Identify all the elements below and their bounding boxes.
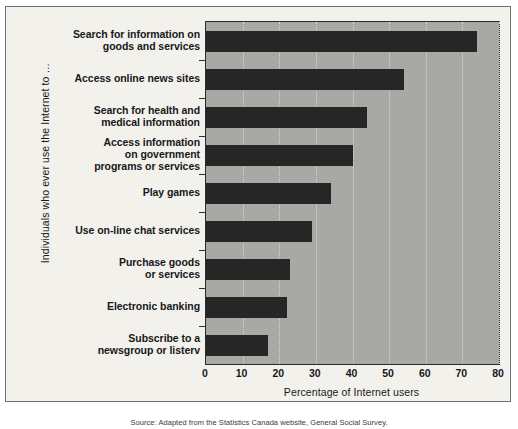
category-label-line: Access information	[28, 136, 200, 148]
x-axis-tick-label: 40	[346, 367, 358, 379]
category-label-column: Search for information ongoods and servi…	[28, 21, 200, 363]
x-axis-title: Percentage of Internet users	[205, 386, 498, 398]
bar	[206, 221, 312, 242]
plot-area	[205, 21, 500, 365]
y-axis-tick	[199, 136, 206, 137]
y-axis-tick	[199, 212, 206, 213]
category-label-line: programs or services	[28, 160, 200, 172]
category-label: Purchase goodsor services	[28, 256, 200, 280]
category-label: Search for information ongoods and servi…	[28, 28, 200, 52]
chart-figure: Individuals who ever use the Internet to…	[5, 6, 511, 402]
x-axis-tick-label: 10	[236, 367, 248, 379]
category-label: Access online news sites	[28, 72, 200, 84]
x-axis-tick-label: 30	[309, 367, 321, 379]
source-caption: Source: Adapted from the Statistics Cana…	[0, 418, 518, 429]
bar	[206, 335, 268, 356]
category-label: Use on-line chat services	[28, 224, 200, 236]
x-axis-tick-label: 20	[272, 367, 284, 379]
category-label-line: medical information	[28, 116, 200, 128]
bar	[206, 31, 477, 52]
category-label-line: Electronic banking	[28, 300, 200, 312]
bar	[206, 107, 367, 128]
bar	[206, 69, 404, 90]
bar	[206, 145, 353, 166]
y-axis-tick	[199, 250, 206, 251]
x-axis-tick-label: 80	[492, 367, 504, 379]
y-axis-tick	[199, 174, 206, 175]
category-label-line: Use on-line chat services	[28, 224, 200, 236]
category-label-line: Search for health and	[28, 104, 200, 116]
category-label: Subscribe to anewsgroup or listerv	[28, 332, 200, 356]
category-label: Play games	[28, 186, 200, 198]
y-axis-tick	[199, 288, 206, 289]
category-label-line: Subscribe to a	[28, 332, 200, 344]
x-axis-tick-labels: 01020304050607080	[205, 367, 498, 383]
gridline	[499, 22, 501, 364]
category-label-line: newsgroup or listerv	[28, 344, 200, 356]
y-axis-tick	[199, 98, 206, 99]
y-axis-tick	[199, 60, 206, 61]
category-label-line: Search for information on	[28, 28, 200, 40]
category-label-line: goods and services	[28, 40, 200, 52]
y-axis-tick	[199, 326, 206, 327]
x-axis-tick-label: 0	[202, 367, 208, 379]
category-label: Access informationon governmentprograms …	[28, 136, 200, 173]
category-label-line: on government	[28, 148, 200, 160]
x-axis-tick-label: 70	[456, 367, 468, 379]
bar	[206, 297, 287, 318]
x-axis-tick-label: 60	[419, 367, 431, 379]
category-label-line: Access online news sites	[28, 72, 200, 84]
category-label: Electronic banking	[28, 300, 200, 312]
bar	[206, 259, 290, 280]
category-label-line: or services	[28, 268, 200, 280]
bar-series	[206, 22, 499, 364]
category-label: Search for health andmedical information	[28, 104, 200, 128]
x-axis-tick-label: 50	[382, 367, 394, 379]
bar	[206, 183, 331, 204]
category-label-line: Purchase goods	[28, 256, 200, 268]
category-label-line: Play games	[28, 186, 200, 198]
